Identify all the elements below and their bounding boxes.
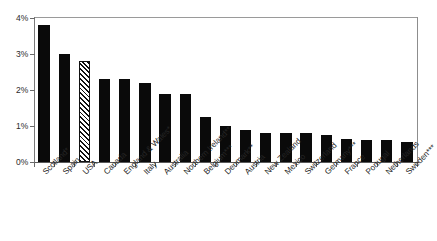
x-axis-label: Italy — [142, 160, 159, 177]
x-axis-label: USA — [81, 158, 99, 176]
